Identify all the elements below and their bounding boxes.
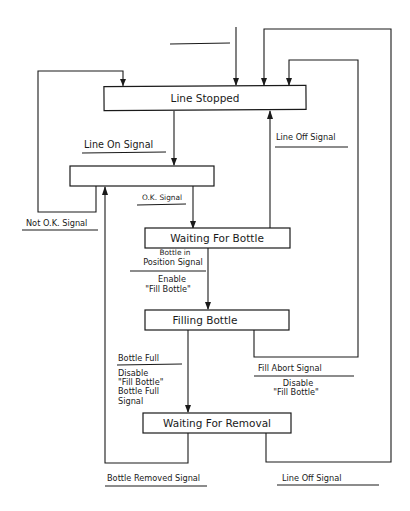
transition-label: Line Off Signal [282,473,342,483]
state-label: Filling Bottle [173,314,238,326]
transition-action-line2: "Fill Bottle" [273,387,318,397]
transition-label: Line On Signal [84,139,153,150]
transition-action-line2: "Fill Bottle" [145,284,190,294]
transition-label: Fill Abort Signal [258,363,322,373]
transition-label: Not O.K. Signal [26,218,87,228]
state-label: Waiting For Bottle [170,232,264,244]
transition-line-on: Line On Signal [82,111,177,166]
state-label: Waiting For Removal [163,417,271,429]
transition-ok: O.K. Signal [137,186,196,229]
transition-action-line1: Enable [158,274,186,284]
state-line-stopped[interactable]: Line Stopped [104,85,306,110]
transition-label: O.K. Signal [142,193,182,202]
transition-label: Bottle Removed Signal [107,473,200,483]
state-waiting-for-removal[interactable]: Waiting For Removal [143,413,291,433]
transition-label: Bottle Full [118,353,159,363]
state-unnamed[interactable] [70,166,214,186]
state-filling-bottle[interactable]: Filling Bottle [145,310,289,330]
transition-event-line1: Bottle in [159,248,190,257]
transition-line-off-from-waiting: Line Off Signal [267,110,348,228]
initial-entry-underline [170,43,230,44]
transition-bottle-in-position: Bottle in Position Signal Enable "Fill B… [130,248,211,310]
state-diagram: Line Stopped Line On Signal Not O.K. Sig… [0,0,410,511]
transition-bottle-full: Bottle Full Disable "Fill Bottle" Bottle… [117,330,191,413]
transition-action-line3: Bottle Full [118,386,159,396]
initial-entry-arrow [170,27,239,86]
transition-action-line4: Signal [118,396,143,406]
transition-event-line2: Position Signal [143,257,203,267]
transition-label: Line Off Signal [276,132,336,142]
state-label: Line Stopped [171,92,240,104]
state-waiting-for-bottle[interactable]: Waiting For Bottle [145,228,290,248]
